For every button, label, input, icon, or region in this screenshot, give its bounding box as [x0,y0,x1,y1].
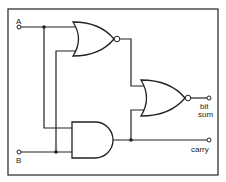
wire-nor1-to-nor2 [120,39,144,86]
input-b-label: B [16,156,21,165]
nor-gate-1 [73,22,114,56]
output-sum-terminal [207,96,211,100]
output-carry-label: carry [191,145,209,154]
input-a-terminal [17,25,21,29]
diagram-frame [8,9,218,175]
and-gate [72,122,113,158]
input-b-terminal [17,150,21,154]
output-carry-terminal [207,138,211,142]
nor-gate-2 [141,80,185,116]
wire-a-to-and [44,27,72,128]
output-sum-label-line2: sum [198,110,213,119]
nor-gate-1-bubble [114,36,120,42]
circuit-diagram: A B bit sum carry [0,0,226,182]
nor-gate-2-bubble [185,95,191,101]
